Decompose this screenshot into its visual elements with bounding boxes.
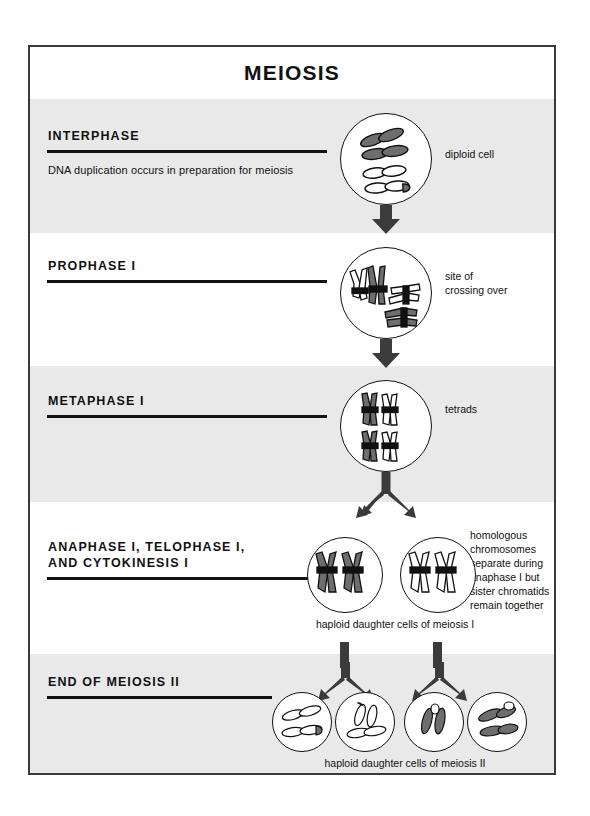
cell-meiosis-ii-daughter-4	[467, 692, 527, 752]
band-metaphase	[30, 366, 554, 502]
title-bar: MEIOSIS	[30, 47, 554, 99]
meiosis-figure-page: MEIOSIS INTERPHASE DNA duplication occur…	[0, 0, 590, 816]
rule-prophase	[47, 280, 327, 283]
cell-meiosis-i-daughter-2	[400, 537, 476, 613]
section-heading-anaphase-line1: ANAPHASE I, TELOPHASE I,	[48, 540, 245, 555]
cell-meiosis-ii-daughter-1	[272, 692, 332, 752]
label-anaphase-line4: anaphase I but	[470, 570, 539, 584]
arrow-interphase-to-prophase	[371, 205, 401, 235]
figure-frame: MEIOSIS INTERPHASE DNA duplication occur…	[28, 45, 556, 775]
caption-meiosis-i: haploid daughter cells of meiosis I	[250, 618, 540, 630]
label-anaphase-line1: homologous	[470, 528, 527, 542]
rule-anaphase	[47, 577, 327, 580]
cell-meiosis-ii-daughter-2	[335, 692, 395, 752]
label-crossing-over-line1: site of	[445, 269, 473, 283]
figure-title: MEIOSIS	[30, 61, 554, 85]
cell-metaphase	[340, 380, 432, 472]
label-anaphase-line3: separate during	[470, 556, 543, 570]
label-anaphase-line5: sister chromatids	[470, 584, 549, 598]
chromosomes-meiosis-ii-1	[273, 693, 333, 753]
label-anaphase-line6: remain together	[470, 598, 544, 612]
band-prophase	[30, 233, 554, 366]
chromosomes-daughter-1	[308, 538, 384, 614]
caption-meiosis-ii: haploid daughter cells of meiosis II	[260, 757, 550, 769]
chromosomes-metaphase	[341, 381, 433, 473]
rule-interphase	[47, 150, 327, 153]
chromosomes-meiosis-ii-3	[405, 693, 465, 753]
cell-meiosis-i-daughter-1	[307, 537, 383, 613]
chromosomes-meiosis-ii-4	[468, 693, 528, 753]
chromosomes-meiosis-ii-2	[336, 693, 396, 753]
section-heading-end: END OF MEIOSIS II	[48, 675, 180, 690]
arrow-prophase-to-metaphase	[371, 339, 401, 369]
chromosomes-prophase	[341, 248, 433, 340]
cell-prophase	[340, 247, 432, 339]
section-heading-metaphase: METAPHASE I	[48, 394, 145, 409]
label-anaphase-line2: chromosomes	[470, 542, 536, 556]
section-heading-interphase: INTERPHASE	[48, 129, 140, 144]
interphase-subtext: DNA duplication occurs in preparation fo…	[48, 164, 293, 176]
cell-meiosis-ii-daughter-3	[404, 692, 464, 752]
arrow-fork-meiosis-i	[336, 472, 436, 524]
label-tetrads: tetrads	[445, 402, 477, 416]
section-heading-anaphase-line2: AND CYTOKINESIS I	[48, 556, 189, 571]
rule-metaphase	[47, 415, 327, 418]
label-diploid-cell: diploid cell	[445, 147, 494, 161]
cell-interphase	[340, 113, 432, 205]
chromosomes-daughter-2	[401, 538, 477, 614]
section-heading-prophase: PROPHASE I	[48, 259, 136, 274]
label-crossing-over-line2: crossing over	[445, 283, 507, 297]
chromosomes-interphase	[341, 114, 433, 206]
rule-end	[47, 696, 272, 699]
